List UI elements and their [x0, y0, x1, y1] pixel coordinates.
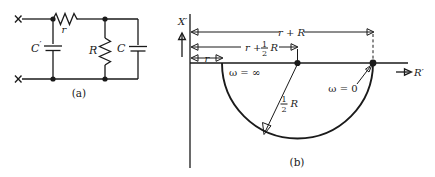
dim-half-lead: r + — [245, 42, 261, 53]
radius-numerator: 1 — [281, 95, 286, 104]
capacitor-c-prime-label: C ′ — [31, 40, 42, 55]
resistor-r-lower-label: r — [62, 24, 68, 35]
resistor-r-lower-symbol — [53, 14, 78, 25]
resistor-R-label: R — [88, 44, 97, 57]
capacitor-c-prime-symbol — [44, 46, 62, 51]
capacitor-c-prime-mark: ′ — [40, 40, 42, 50]
resistor-R-symbol — [100, 38, 111, 65]
dim-half-numerator: 1 — [262, 40, 267, 49]
axis-horizontal-label: R′ — [413, 67, 425, 78]
dim-r: r — [191, 53, 223, 64]
capacitor-C-label: C — [117, 42, 126, 55]
node-dot-bottom-mid — [102, 76, 107, 81]
omega-zero-label: ω = 0 — [328, 83, 357, 94]
radius-tail: R — [290, 98, 299, 109]
radius-denominator: 2 — [281, 105, 286, 114]
figure-root: r C ′ R — [0, 0, 435, 177]
dim-r-plus-R-label: r + R — [278, 27, 306, 38]
capacitor-C-symbol — [129, 47, 147, 52]
dim-r-plus-R: r + R — [191, 27, 374, 38]
axis-vertical-label: X′ — [177, 16, 188, 27]
node-dot-top-mid — [102, 16, 107, 21]
figure-svg: r C ′ R — [0, 0, 435, 177]
panel-a-caption: (a) — [72, 87, 86, 99]
terminal-top — [15, 16, 22, 23]
dim-half-tail: R — [270, 42, 279, 53]
terminal-bottom — [15, 76, 22, 83]
panel-a-circuit: r C ′ R — [15, 14, 147, 100]
node-dot-bottom-left — [50, 76, 55, 81]
radius-label: 1 2 R — [281, 95, 299, 114]
omega-infinity-label: ω = ∞ — [229, 67, 260, 78]
center-point-dot — [294, 60, 300, 66]
panel-b-caption: (b) — [290, 156, 305, 168]
dim-half-denominator: 2 — [262, 49, 267, 58]
omega-zero-pointer-arrow — [357, 65, 372, 84]
axis-vertical-arrow — [179, 33, 186, 57]
node-dot-top-left — [50, 16, 55, 21]
axis-horizontal-arrow — [396, 69, 412, 75]
panel-b-locus: X′ R′ r + R — [177, 14, 425, 168]
